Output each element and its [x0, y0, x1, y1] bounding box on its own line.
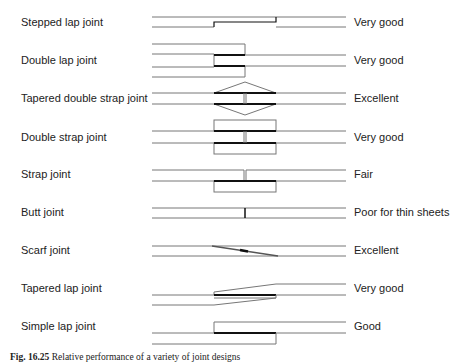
butt-diagram: [152, 208, 346, 218]
joint-diagrams: [0, 0, 461, 362]
figure-number: Fig. 16.25: [10, 352, 49, 362]
scarf-diagram: [152, 246, 346, 256]
tapered-lap-diagram: [152, 284, 346, 305]
stepped-lap-diagram: [152, 17, 346, 27]
simple-lap-diagram: [152, 322, 346, 344]
tapered-double-strap-diagram: [152, 82, 346, 115]
figure-caption: Fig. 16.25 Relative performance of a var…: [10, 352, 240, 362]
caption-text: Relative performance of a variety of joi…: [52, 352, 241, 362]
double-strap-diagram: [152, 120, 346, 154]
double-lap-diagram: [152, 44, 346, 77]
strap-diagram: [152, 170, 346, 192]
